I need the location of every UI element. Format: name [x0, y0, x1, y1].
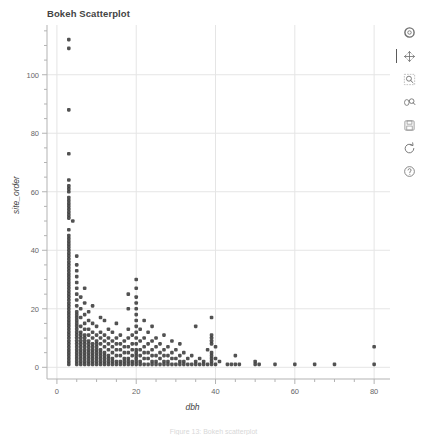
- y-tick-label: 80: [13, 129, 39, 138]
- axis-lines: [47, 25, 390, 379]
- x-tick-label: 20: [132, 387, 140, 396]
- bokeh-logo-icon[interactable]: [401, 24, 417, 40]
- x-tick-label: 60: [291, 387, 299, 396]
- x-tick-label: 0: [55, 387, 59, 396]
- y-tick-label: 40: [13, 246, 39, 255]
- wheel-zoom-tool-icon[interactable]: [401, 94, 417, 110]
- figure-caption: Figure 13: Bokeh scatterplot: [0, 428, 427, 435]
- x-tick-label: 80: [370, 387, 378, 396]
- plot-canvas[interactable]: [0, 0, 427, 420]
- save-tool-icon[interactable]: [401, 117, 417, 133]
- y-axis-label: site_order: [11, 155, 21, 235]
- box-zoom-tool-icon[interactable]: [401, 71, 417, 87]
- y-tick-label: 0: [13, 363, 39, 372]
- figure-root: Bokeh Scatterplot 020406080020406080100 …: [0, 0, 427, 441]
- x-tick-label: 40: [211, 387, 219, 396]
- help-tool-icon[interactable]: [401, 163, 417, 179]
- y-tick-label: 20: [13, 304, 39, 313]
- reset-tool-icon[interactable]: [401, 140, 417, 156]
- bokeh-toolbar[interactable]: [398, 24, 420, 179]
- scatter-points: [67, 38, 376, 366]
- pan-tool-icon[interactable]: [401, 48, 417, 64]
- x-axis-label: dbh: [0, 402, 427, 412]
- x-axis-label-text: dbh: [185, 402, 199, 412]
- bokeh-plot: Bokeh Scatterplot 020406080020406080100 …: [0, 0, 427, 420]
- grid-lines: [47, 25, 390, 379]
- y-tick-label: 100: [13, 70, 39, 79]
